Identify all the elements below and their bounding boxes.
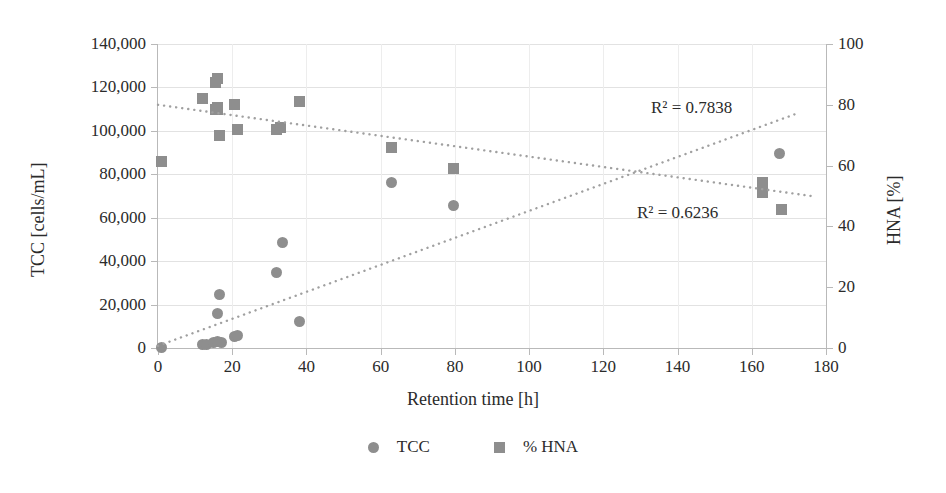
legend-marker-square-icon (494, 442, 505, 453)
x-axis-line (158, 348, 827, 349)
y-axis-right-tick (827, 105, 833, 106)
x-axis-tick-label: 0 (128, 358, 188, 375)
data-point-hna (776, 204, 787, 215)
gridline-vertical (232, 44, 233, 348)
x-axis-tick-label: 140 (648, 358, 708, 375)
x-axis-tick (232, 349, 233, 355)
y-axis-left-tick-label: 140,000 (36, 35, 146, 52)
y-axis-right-tick-label: 0 (838, 339, 878, 356)
x-axis-tick-label: 40 (276, 358, 336, 375)
data-point-hna (448, 163, 459, 174)
y-axis-left-tick-label: 0 (36, 339, 146, 356)
gridline-horizontal (158, 131, 826, 132)
gridline-vertical (455, 44, 456, 348)
data-point-hna (212, 73, 223, 84)
gridline-horizontal (158, 174, 826, 175)
x-axis-tick (678, 349, 679, 355)
y-axis-right-tick (827, 348, 833, 349)
data-point-tcc (216, 337, 227, 348)
x-axis-tick-label: 100 (499, 358, 559, 375)
legend-marker-circle-icon (368, 442, 379, 453)
x-axis-tick-label: 160 (722, 358, 782, 375)
x-axis-tick (306, 349, 307, 355)
data-point-hna (232, 124, 243, 135)
gridline-horizontal (158, 87, 826, 88)
gridline-horizontal (158, 305, 826, 306)
y-axis-left-tick (151, 131, 157, 132)
gridline-horizontal (158, 261, 826, 262)
x-axis-tick-label: 60 (351, 358, 411, 375)
data-point-tcc (156, 342, 167, 353)
x-axis-tick-label: 180 (796, 358, 856, 375)
gridline-vertical (752, 44, 753, 348)
data-point-hna (294, 96, 305, 107)
y-axis-right-tick-label: 20 (838, 278, 878, 295)
y-axis-left-tick-label: 100,000 (36, 122, 146, 139)
x-axis-tick (826, 349, 827, 355)
gridline-vertical (603, 44, 604, 348)
x-axis-tick (752, 349, 753, 355)
data-point-tcc (277, 237, 288, 248)
y-axis-right-tick (827, 166, 833, 167)
legend-label-tcc: TCC (397, 437, 430, 457)
data-point-hna (212, 102, 223, 113)
data-point-tcc (448, 200, 459, 211)
data-point-tcc (214, 289, 225, 300)
x-axis-tick-label: 120 (573, 358, 633, 375)
gridline-horizontal (158, 218, 826, 219)
x-axis-tick-label: 20 (202, 358, 262, 375)
y-axis-left-tick (151, 174, 157, 175)
y-axis-left-tick-label: 40,000 (36, 252, 146, 269)
data-point-hna (156, 156, 167, 167)
y-axis-left-tick (151, 261, 157, 262)
legend-item-hna: % HNA (494, 437, 578, 457)
y-axis-right-tick-label: 60 (838, 157, 878, 174)
y-axis-right-tick (827, 287, 833, 288)
gridline-vertical (678, 44, 679, 348)
x-axis-tick (381, 349, 382, 355)
y-axis-right-tick-label: 100 (838, 35, 878, 52)
plot-area (158, 44, 826, 348)
y-axis-left-tick (151, 44, 157, 45)
gridline-vertical (529, 44, 530, 348)
x-axis-tick (529, 349, 530, 355)
data-point-tcc (294, 316, 305, 327)
chart-legend: TCC % HNA (0, 437, 946, 457)
x-axis-tick (455, 349, 456, 355)
x-axis-tick-label: 80 (425, 358, 485, 375)
x-axis-tick (603, 349, 604, 355)
gridline-vertical (306, 44, 307, 348)
chart-figure: 020,00040,00060,00080,000100,000120,0001… (0, 0, 946, 493)
y-axis-right-line (826, 44, 827, 349)
data-point-hna (757, 187, 768, 198)
legend-label-hna: % HNA (523, 437, 578, 457)
y-axis-right-tick (827, 226, 833, 227)
y-axis-left-title: TCC [cells/mL] (28, 120, 50, 320)
y-axis-left-tick-label: 80,000 (36, 165, 146, 182)
y-axis-left-tick (151, 218, 157, 219)
y-axis-right-title: HNA [%] (884, 140, 906, 280)
y-axis-right-tick (827, 44, 833, 45)
gridline-horizontal (158, 44, 826, 45)
data-point-tcc (212, 308, 223, 319)
data-point-hna (275, 122, 286, 133)
legend-item-tcc: TCC (368, 437, 430, 457)
y-axis-left-tick-label: 60,000 (36, 209, 146, 226)
x-axis-title: Retention time [h] (0, 389, 946, 410)
data-point-tcc (774, 148, 785, 159)
y-axis-left-tick (151, 87, 157, 88)
y-axis-left-line (157, 44, 158, 349)
y-axis-right-tick-label: 40 (838, 217, 878, 234)
data-point-hna (197, 93, 208, 104)
r2-annotation-tcc: R² = 0.6236 (637, 203, 718, 223)
data-point-hna (214, 130, 225, 141)
r2-annotation-hna: R² = 0.7838 (651, 98, 732, 118)
gridline-vertical (381, 44, 382, 348)
y-axis-left-tick-label: 20,000 (36, 296, 146, 313)
y-axis-left-tick-label: 120,000 (36, 78, 146, 95)
data-point-hna (386, 142, 397, 153)
y-axis-left-tick (151, 305, 157, 306)
data-point-hna (229, 99, 240, 110)
y-axis-right-tick-label: 80 (838, 96, 878, 113)
